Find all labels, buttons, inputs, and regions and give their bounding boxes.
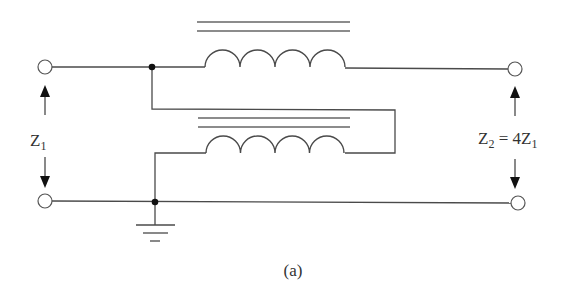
output-up-arrow-icon (510, 86, 520, 116)
input-up-arrow-icon (40, 85, 50, 115)
circuit-diagram: Z1 Z2 = 4Z1 (a) (0, 0, 576, 296)
upper-winding (205, 50, 345, 67)
top-junction-dot (149, 64, 156, 71)
output-bottom-terminal (511, 196, 525, 210)
output-impedance-label: Z2 = 4Z1 (478, 129, 537, 151)
figure-caption: (a) (284, 261, 303, 280)
bottom-rail (52, 201, 511, 203)
ground-icon (136, 202, 175, 241)
bottom-junction-dot (152, 199, 159, 206)
output-down-arrow-icon (510, 159, 520, 189)
input-bottom-terminal (38, 194, 52, 208)
output-top-terminal (508, 62, 522, 76)
cross-connection-wire (152, 67, 395, 153)
upper-core (197, 22, 350, 31)
input-down-arrow-icon (40, 157, 50, 188)
input-impedance-label: Z1 (30, 131, 46, 153)
lower-winding-lead (155, 153, 206, 202)
lower-winding (206, 136, 344, 153)
input-top-terminal (38, 60, 52, 74)
top-right-wire (345, 68, 508, 69)
lower-core (198, 118, 350, 127)
